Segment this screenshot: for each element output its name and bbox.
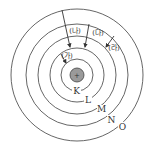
shell-label-k: K — [73, 86, 80, 96]
nucleus: + — [70, 68, 84, 82]
transition-da-label: (다) — [92, 28, 104, 37]
transition-na-label: (나) — [69, 26, 81, 35]
shell-label-l: L — [85, 95, 91, 105]
transition-ga-label: (가) — [61, 51, 73, 60]
nucleus-charge: + — [74, 72, 80, 80]
shell-label-o: O — [119, 122, 126, 132]
shell-label-n: N — [108, 115, 116, 125]
bohr-atom-diagram: + K L M N O (가) (나) (다) (라) — [0, 0, 152, 154]
shell-label-m: M — [97, 104, 106, 114]
transition-ra-label: (라) — [108, 43, 120, 52]
transition-da-arrow — [85, 24, 89, 47]
